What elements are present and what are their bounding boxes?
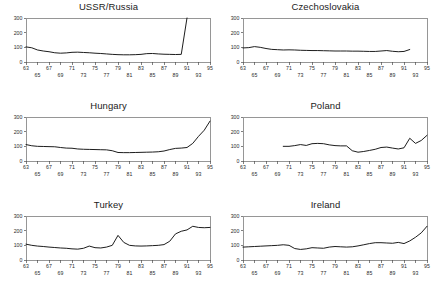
- x-tick-label: 77: [321, 171, 327, 177]
- x-tick-label: 89: [173, 270, 179, 276]
- x-tick-label: 77: [321, 270, 327, 276]
- x-tick-label: 67: [263, 263, 269, 269]
- x-tick-label: 81: [127, 270, 133, 276]
- x-tick-label: 65: [252, 72, 258, 78]
- chart-panel: Czechoslovakia01002003006367717579838791…: [217, 0, 434, 99]
- plot-frame: [243, 216, 427, 260]
- y-tick-label: 100: [231, 44, 240, 50]
- y-tick-label: 200: [231, 30, 240, 36]
- y-tick-label: 200: [14, 228, 23, 234]
- y-tick-label: 300: [231, 114, 240, 120]
- x-tick-label: 89: [390, 270, 396, 276]
- x-tick-label: 91: [184, 164, 190, 170]
- x-tick-label: 93: [413, 171, 419, 177]
- x-tick-label: 67: [46, 263, 52, 269]
- x-tick-label: 65: [35, 72, 41, 78]
- x-tick-label: 69: [275, 72, 281, 78]
- x-tick-label: 79: [332, 164, 338, 170]
- x-tick-label: 77: [104, 270, 110, 276]
- x-tick-label: 87: [378, 65, 384, 71]
- x-tick-label: 87: [161, 164, 167, 170]
- x-tick-label: 87: [161, 65, 167, 71]
- x-tick-label: 85: [150, 270, 156, 276]
- data-series: [26, 121, 210, 153]
- x-tick-label: 79: [115, 164, 121, 170]
- x-tick-label: 75: [309, 65, 315, 71]
- y-tick-label: 0: [237, 158, 240, 164]
- x-tick-label: 81: [127, 72, 133, 78]
- x-tick-label: 67: [46, 164, 52, 170]
- x-tick-label: 79: [332, 263, 338, 269]
- x-tick-label: 71: [286, 65, 292, 71]
- x-tick-label: 73: [298, 270, 304, 276]
- x-tick-label: 85: [367, 171, 373, 177]
- x-tick-label: 69: [58, 171, 64, 177]
- plot-area: 0100200300636771757983879195656973778185…: [0, 0, 217, 99]
- small-multiples-figure: USSR/Russia01002003006367717579838791956…: [0, 0, 434, 297]
- y-tick-label: 300: [14, 114, 23, 120]
- y-tick-label: 200: [14, 30, 23, 36]
- x-tick-label: 93: [196, 270, 202, 276]
- x-tick-label: 85: [150, 171, 156, 177]
- plot-frame: [26, 18, 210, 62]
- plot-area: 0100200300636771757983879195656973778185…: [217, 99, 434, 198]
- x-tick-label: 81: [344, 171, 350, 177]
- y-tick-label: 300: [14, 15, 23, 21]
- x-tick-label: 65: [252, 270, 258, 276]
- x-tick-label: 95: [424, 164, 430, 170]
- x-tick-label: 81: [344, 270, 350, 276]
- chart-panel: USSR/Russia01002003006367717579838791956…: [0, 0, 217, 99]
- x-tick-label: 91: [401, 263, 407, 269]
- y-tick-label: 100: [231, 143, 240, 149]
- x-tick-label: 63: [240, 164, 246, 170]
- x-tick-label: 71: [69, 65, 75, 71]
- x-tick-label: 71: [286, 263, 292, 269]
- x-tick-label: 71: [286, 164, 292, 170]
- x-tick-label: 75: [309, 164, 315, 170]
- plot-area: 0100200300636771757983879195656973778185…: [0, 99, 217, 198]
- x-tick-label: 89: [390, 72, 396, 78]
- y-tick-label: 200: [231, 228, 240, 234]
- x-tick-label: 93: [413, 72, 419, 78]
- y-tick-label: 100: [231, 242, 240, 248]
- x-tick-label: 93: [413, 270, 419, 276]
- data-series: [243, 47, 410, 52]
- y-tick-label: 300: [231, 15, 240, 21]
- data-series: [243, 226, 427, 249]
- x-tick-label: 67: [46, 65, 52, 71]
- x-tick-label: 71: [69, 164, 75, 170]
- x-tick-label: 69: [58, 270, 64, 276]
- x-tick-label: 63: [23, 65, 29, 71]
- x-tick-label: 85: [150, 72, 156, 78]
- x-tick-label: 67: [263, 65, 269, 71]
- plot-frame: [243, 117, 427, 161]
- x-tick-label: 69: [275, 270, 281, 276]
- data-series: [26, 18, 187, 55]
- x-tick-label: 79: [115, 263, 121, 269]
- x-tick-label: 83: [355, 65, 361, 71]
- y-tick-label: 0: [237, 257, 240, 263]
- x-tick-label: 77: [104, 171, 110, 177]
- data-series: [283, 135, 427, 152]
- y-tick-label: 200: [14, 129, 23, 135]
- x-tick-label: 73: [81, 270, 87, 276]
- y-tick-label: 0: [20, 257, 23, 263]
- x-tick-label: 63: [240, 263, 246, 269]
- x-tick-label: 77: [104, 72, 110, 78]
- x-tick-label: 95: [207, 65, 213, 71]
- x-tick-label: 85: [367, 72, 373, 78]
- x-tick-label: 73: [298, 72, 304, 78]
- y-tick-label: 300: [14, 213, 23, 219]
- x-tick-label: 67: [263, 164, 269, 170]
- x-tick-label: 87: [378, 164, 384, 170]
- y-tick-label: 100: [14, 143, 23, 149]
- x-tick-label: 69: [58, 72, 64, 78]
- x-tick-label: 93: [196, 171, 202, 177]
- x-tick-label: 69: [275, 171, 281, 177]
- x-tick-label: 71: [69, 263, 75, 269]
- x-tick-label: 85: [367, 270, 373, 276]
- x-tick-label: 79: [115, 65, 121, 71]
- x-tick-label: 91: [184, 65, 190, 71]
- x-tick-label: 63: [23, 263, 29, 269]
- x-tick-label: 95: [207, 164, 213, 170]
